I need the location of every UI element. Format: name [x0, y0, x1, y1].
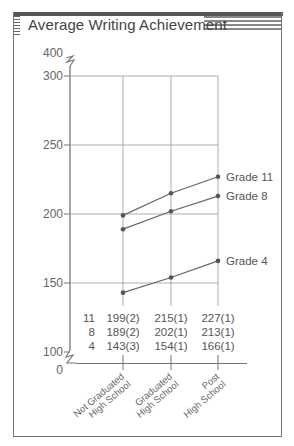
table-cell: 166(1) [201, 340, 234, 352]
data-point [169, 191, 174, 196]
data-point [216, 259, 221, 264]
series-label: Grade 11 [226, 171, 273, 183]
table-cell: 215(1) [154, 312, 187, 324]
y-tick-label: 200 [43, 207, 63, 221]
table-cell: 189(2) [106, 326, 139, 338]
y-tick-label: 150 [43, 276, 63, 290]
data-point [216, 194, 221, 199]
line-chart: 4003002502001501000Grade 11Grade 8Grade … [0, 0, 294, 446]
y-tick-label: 0 [56, 363, 63, 377]
data-point [169, 209, 174, 214]
y-tick-label: 300 [43, 69, 63, 83]
axis-break-top-icon [66, 56, 74, 66]
table-cell: 202(1) [154, 326, 187, 338]
y-tick-label: 100 [43, 345, 63, 359]
data-point [169, 275, 174, 280]
table-cell: 213(1) [201, 326, 234, 338]
table-row-grade: 11 [83, 312, 95, 324]
table-cell: 154(1) [154, 340, 187, 352]
table-cell: 143(3) [106, 340, 139, 352]
data-point [121, 213, 126, 218]
series-label: Grade 8 [226, 190, 268, 202]
x-category-label: Not GraduatedHigh School [71, 371, 132, 427]
data-point [121, 290, 126, 295]
x-category-label: PostHigh School [175, 370, 228, 419]
table-row-grade: 4 [89, 340, 96, 352]
data-point [216, 174, 221, 179]
data-point [121, 227, 126, 232]
y-tick-label: 250 [43, 138, 63, 152]
x-category-label: GraduatedHigh School [128, 371, 181, 420]
table-cell: 227(1) [201, 312, 234, 324]
series-label: Grade 4 [226, 255, 268, 267]
table-row-grade: 8 [89, 326, 95, 338]
y-tick-label: 400 [43, 46, 63, 60]
table-cell: 199(2) [106, 312, 139, 324]
